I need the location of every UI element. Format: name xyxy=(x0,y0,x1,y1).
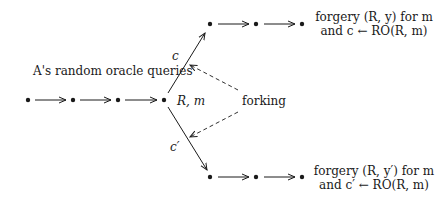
edge-label-c-prime: c′ xyxy=(170,140,179,154)
top-branch xyxy=(168,22,304,93)
random-oracle-queries-label: A's random oracle queries xyxy=(33,64,193,78)
bottom-branch xyxy=(168,107,304,179)
edge-label-c: c xyxy=(172,49,179,63)
bottom-outcome-line1: forgery (R, y′) for m xyxy=(312,164,436,178)
fork-point-label: R, m xyxy=(177,94,205,108)
top-outcome: forgery (R, y) for m and c ← RO(R, m) xyxy=(314,10,434,38)
bottom-outcome-line2: and c′ ← RO(R, m) xyxy=(312,178,436,192)
main-chain xyxy=(26,98,166,102)
top-outcome-line2: and c ← RO(R, m) xyxy=(314,24,434,38)
forking-label: forking xyxy=(242,94,286,108)
bottom-outcome: forgery (R, y′) for m and c′ ← RO(R, m) xyxy=(312,164,436,192)
top-outcome-line1: forgery (R, y) for m xyxy=(314,10,434,24)
